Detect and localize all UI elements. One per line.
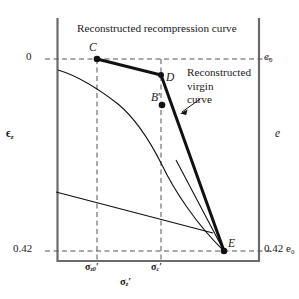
point-marker-E xyxy=(221,248,228,255)
point-marker-C xyxy=(94,56,101,63)
point-label-B-prime: B′ xyxy=(151,92,161,104)
042e0-subscript: 0 xyxy=(291,248,294,255)
lower-straight-line xyxy=(56,192,213,233)
y-axis-tick-042: 0.42 xyxy=(13,243,32,254)
y-axis-label-e: e xyxy=(275,128,280,140)
y-axis-right-tick-e0: e0 xyxy=(264,51,272,63)
tick1-prime: ′ xyxy=(159,261,162,272)
epsilon-subscript: z xyxy=(11,133,14,141)
point-label-C: C xyxy=(89,42,97,54)
e0-subscript: 0 xyxy=(269,56,272,63)
virgin-annotation-line-1: Reconstructed xyxy=(187,66,251,80)
B-prime-mark: ′ xyxy=(158,91,161,103)
sigma-prime: ′ xyxy=(128,276,131,287)
point-marker-D xyxy=(158,72,164,78)
y-axis-tick-zero: 0 xyxy=(26,51,32,62)
x-tick-sigma-z0-prime: σz0′ xyxy=(85,262,99,273)
x-axis-label-sigma-z-prime: σz′ xyxy=(120,277,131,288)
042e0-symbol: 0.42 e xyxy=(264,242,291,254)
tick0-prime: ′ xyxy=(96,261,99,272)
virgin-curve-annotation: Reconstructed virgin curve xyxy=(187,66,251,107)
y-axis-right-tick-042e0: 0.42 e0 xyxy=(264,243,294,255)
point-label-E: E xyxy=(228,238,235,250)
chart-title: Reconstructed recompression curve xyxy=(77,23,237,34)
virgin-annotation-line-3: curve xyxy=(187,93,251,107)
x-tick-sigma-c-prime: σc′ xyxy=(151,262,162,273)
thin-virgin-line xyxy=(176,160,224,251)
plot-svg xyxy=(0,0,299,299)
virgin-annotation-line-2: virgin xyxy=(187,80,251,94)
y-axis-label-epsilon-z: ϵz xyxy=(6,128,14,141)
point-label-D: D xyxy=(166,72,174,84)
figure-canvas: Reconstructed recompression curve 0 0.42… xyxy=(0,0,299,299)
B-symbol: B xyxy=(151,91,158,103)
